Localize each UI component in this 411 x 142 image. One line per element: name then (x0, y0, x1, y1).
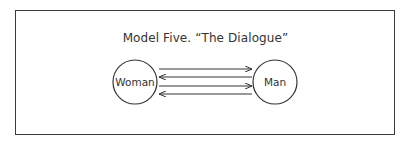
woman-label: Woman (115, 76, 155, 88)
man-node: Man (253, 60, 297, 104)
woman-node: Woman (113, 60, 157, 104)
diagram-canvas: Woman Man (0, 0, 411, 142)
man-label: Man (264, 76, 286, 88)
arrows-group (159, 69, 252, 94)
